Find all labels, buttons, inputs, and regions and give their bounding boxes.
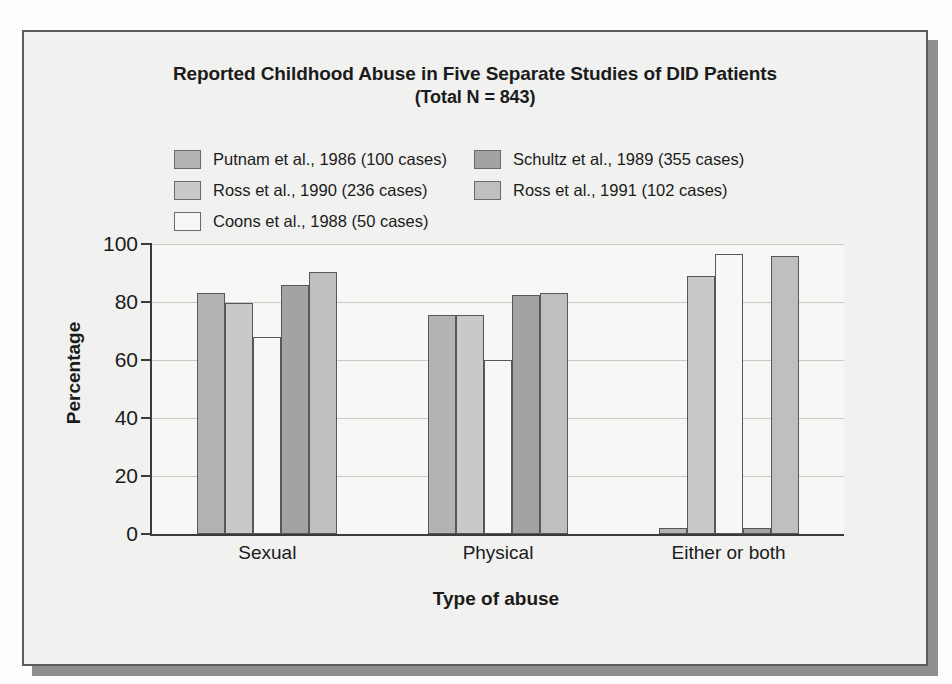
- y-tick-mark: [141, 359, 152, 361]
- x-tick-label: Sexual: [152, 542, 382, 564]
- y-tick-mark: [141, 533, 152, 535]
- bar: [659, 528, 687, 534]
- bar: [281, 285, 309, 534]
- y-tick-mark: [141, 301, 152, 303]
- x-axis-title: Type of abuse: [150, 588, 842, 610]
- y-tick-mark: [141, 475, 152, 477]
- bar: [197, 293, 225, 534]
- plot-wrapper: Percentage 020406080100SexualPhysicalEit…: [24, 32, 930, 668]
- bar: [253, 337, 281, 534]
- bar: [456, 315, 484, 534]
- bar-group: [428, 244, 568, 534]
- y-tick-label: 80: [78, 290, 138, 314]
- y-tick-mark: [141, 417, 152, 419]
- x-tick-label: Physical: [383, 542, 613, 564]
- bar: [540, 293, 568, 534]
- bar: [309, 272, 337, 534]
- bar-group: [197, 244, 337, 534]
- bar: [715, 254, 743, 534]
- plot-area: 020406080100SexualPhysicalEither or both: [150, 244, 844, 536]
- bar: [225, 303, 253, 534]
- bar: [743, 528, 771, 534]
- x-tick-label: Either or both: [614, 542, 844, 564]
- y-tick-label: 40: [78, 406, 138, 430]
- figure-panel: Reported Childhood Abuse in Five Separat…: [22, 30, 928, 666]
- page-background: Reported Childhood Abuse in Five Separat…: [0, 0, 952, 684]
- bar: [484, 360, 512, 534]
- y-tick-label: 60: [78, 348, 138, 372]
- bar: [512, 295, 540, 534]
- bar-group: [659, 244, 799, 534]
- y-tick-label: 100: [78, 232, 138, 256]
- bar: [428, 315, 456, 534]
- bar: [771, 256, 799, 534]
- y-tick-label: 20: [78, 464, 138, 488]
- y-tick-label: 0: [78, 522, 138, 546]
- y-tick-mark: [141, 243, 152, 245]
- bar: [687, 276, 715, 534]
